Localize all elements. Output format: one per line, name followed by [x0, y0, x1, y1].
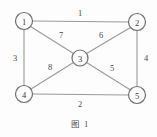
- figure-container: 1 3 4 2 7 6 8 5 1 2 3 4 5 图 1: [0, 0, 157, 137]
- figure-caption: 图 1: [71, 119, 89, 129]
- edge-weight-2-5: 4: [144, 53, 149, 63]
- edge-weight-2-3: 6: [99, 30, 103, 40]
- edge-1-2: [33, 21, 129, 22]
- edge-weight-1-4: 3: [13, 53, 17, 63]
- weighted-graph-diagram: 1 3 4 2 7 6 8 5 1 2 3 4 5 图 1: [0, 0, 157, 137]
- edge-weight-4-5: 2: [78, 99, 82, 109]
- edge-5-3: [87, 63, 131, 91]
- edge-1-3: [31, 27, 74, 54]
- edge-4-5: [33, 94, 129, 95]
- node-label-1: 1: [22, 17, 26, 27]
- edge-weight-5-3: 5: [110, 63, 114, 73]
- edge-2-3: [87, 28, 131, 54]
- node-label-2: 2: [135, 18, 139, 28]
- node-label-3: 3: [78, 54, 82, 64]
- node-label-5: 5: [135, 91, 139, 101]
- node-label-group: 1 2 3 4 5: [22, 17, 139, 101]
- edge-weight-1-3: 7: [59, 30, 63, 40]
- edge-weight-1-2: 1: [78, 8, 82, 18]
- edge-4-3: [31, 63, 74, 90]
- edge-weight-4-3: 8: [48, 62, 52, 72]
